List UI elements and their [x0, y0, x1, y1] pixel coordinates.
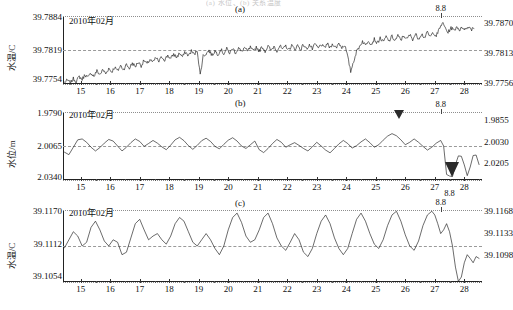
x-tick-label: 28 [460, 86, 469, 96]
x-tick-label: 19 [194, 182, 203, 192]
panel-a-ytick-top: 39.7884 [33, 12, 62, 22]
panel-b-ytick-group: 1.9790 2.0065 2.0340 [14, 106, 62, 202]
x-tick-label: 16 [106, 182, 115, 192]
right-annotation-0: 39.7870 [484, 18, 513, 28]
event-label-8-8: 8.8 [435, 197, 446, 207]
series-path [64, 134, 479, 177]
x-tick-label: 22 [283, 284, 292, 294]
panel-c-plot: 2010年02月 (c) 39.116839.113339.1098151617… [63, 210, 482, 282]
panel-c-ytick-top: 39.1170 [33, 206, 62, 216]
x-tick-label: 22 [283, 182, 292, 192]
x-tick-label: 28 [460, 182, 469, 192]
x-tick-label: 20 [224, 284, 233, 294]
x-tick-label: 18 [165, 182, 174, 192]
series-trace [63, 16, 482, 84]
panel-a-ytick-bottom: 39.7754 [33, 74, 62, 84]
x-tick-label: 23 [312, 182, 321, 192]
x-tick-label: 27 [430, 182, 439, 192]
panel-b-ytick-mid: 2.0065 [37, 141, 62, 151]
event-label-8-8: 8.8 [435, 99, 446, 109]
x-tick-label: 18 [165, 284, 174, 294]
event-triangle-marker-1 [445, 162, 459, 177]
right-annotation-1: 39.1133 [484, 228, 513, 238]
x-tick-label: 26 [401, 182, 410, 192]
x-tick-label: 25 [371, 284, 380, 294]
panel-c-ytick-group: 39.1170 39.1112 39.1054 [14, 204, 62, 308]
right-annotation-0: 39.1168 [484, 206, 513, 216]
x-tick-label: 16 [106, 86, 115, 96]
event-tick-mark [441, 13, 442, 18]
x-tick-label: 26 [401, 284, 410, 294]
panel-c-ytick-mid: 39.1112 [33, 239, 62, 249]
panel-a-ytick-mid: 39.7819 [33, 45, 62, 55]
right-annotation-2: 39.7756 [484, 78, 513, 88]
right-annotation-0: 1.9855 [484, 115, 509, 125]
series-trace [63, 112, 482, 180]
event-tick-mark [441, 109, 442, 114]
x-tick-label: 20 [224, 182, 233, 192]
x-tick-label: 20 [224, 86, 233, 96]
x-tick-label: 19 [194, 284, 203, 294]
x-tick-label: 23 [312, 284, 321, 294]
x-tick-label: 15 [76, 86, 85, 96]
x-tick-label: 16 [106, 284, 115, 294]
right-annotation-1: 2.0030 [484, 137, 509, 147]
x-tick-label: 17 [135, 284, 144, 294]
x-tick-label: 17 [135, 182, 144, 192]
panel-c-letter: (c) [235, 198, 245, 208]
x-tick-label: 15 [76, 182, 85, 192]
x-tick-label: 25 [371, 182, 380, 192]
x-tick-label: 18 [165, 86, 174, 96]
x-tick-label: 28 [460, 284, 469, 294]
panel-b: 水位/m 1.9790 2.0065 2.0340 2010年02月 (b) 1… [0, 106, 488, 202]
x-tick-label: 26 [401, 86, 410, 96]
x-tick-label: 17 [135, 86, 144, 96]
x-tick-label: 25 [371, 86, 380, 96]
x-tick-label: 22 [283, 86, 292, 96]
x-tick-label: 24 [342, 86, 351, 96]
series-trace [63, 210, 482, 282]
panel-b-ytick-bottom: 2.0340 [37, 172, 62, 182]
event-triangle-marker-0 [394, 110, 404, 119]
event-tick-mark [441, 207, 442, 212]
series-path [64, 22, 473, 84]
panel-a-plot: 2010年02月 (a) 39.787039.781339.7756151617… [63, 16, 482, 84]
event-label-8-8: 8.8 [435, 3, 446, 13]
x-tick-label: 21 [253, 86, 262, 96]
x-tick-label: 27 [430, 284, 439, 294]
series-path [64, 211, 479, 281]
x-tick-label: 27 [430, 86, 439, 96]
x-tick-label: 24 [342, 284, 351, 294]
panel-b-letter: (b) [235, 98, 246, 108]
right-annotation-1: 39.7813 [484, 48, 513, 58]
x-tick-label: 15 [76, 284, 85, 294]
x-tick-label: 21 [253, 284, 262, 294]
panel-a-letter: (a) [235, 4, 245, 14]
right-annotation-2: 2.0205 [484, 158, 509, 168]
x-tick-label: 19 [194, 86, 203, 96]
x-tick-label: 23 [312, 86, 321, 96]
right-annotation-2: 39.1098 [484, 250, 513, 260]
panel-a-ytick-group: 39.7884 39.7819 39.7754 [14, 12, 62, 104]
panel-c-ytick-bottom: 39.1054 [33, 271, 62, 281]
x-tick-label: 24 [342, 182, 351, 192]
panel-b-plot: 2010年02月 (b) 1.98552.00302.0205151617181… [63, 112, 482, 180]
x-tick-label: 21 [253, 182, 262, 192]
panel-c: 水温/C 39.1170 39.1112 39.1054 2010年02月 (c… [0, 204, 488, 308]
panel-b-ytick-top: 1.9790 [37, 108, 62, 118]
panel-a: 水温/C 39.7884 39.7819 39.7754 2010年02月 (a… [0, 12, 488, 104]
